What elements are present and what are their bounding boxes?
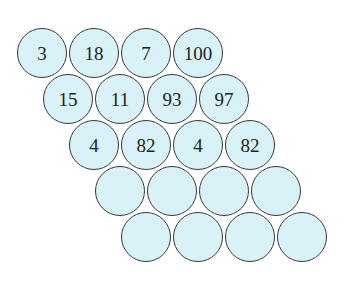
circle-value: 11 (111, 90, 129, 109)
circle-value: 18 (85, 44, 104, 63)
circle-value: 82 (241, 136, 260, 155)
circle-r4-c2 (147, 166, 197, 216)
circle-r2-c4: 97 (199, 74, 249, 124)
circle-r4-c3 (199, 166, 249, 216)
circle-r3-c3: 4 (173, 120, 223, 170)
circle-value: 97 (215, 90, 234, 109)
circle-r4-c4 (251, 166, 301, 216)
circle-r3-c2: 82 (121, 120, 171, 170)
circle-r4-c1 (95, 166, 145, 216)
circle-r2-c3: 93 (147, 74, 197, 124)
circle-r2-c1: 15 (43, 74, 93, 124)
circle-value: 15 (59, 90, 78, 109)
circle-r5-c1 (121, 212, 171, 262)
circle-value: 4 (89, 136, 99, 155)
circle-r3-c4: 82 (225, 120, 275, 170)
circle-r5-c4 (277, 212, 327, 262)
circle-r1-c2: 18 (69, 28, 119, 78)
circle-value: 7 (141, 44, 151, 63)
circle-r3-c1: 4 (69, 120, 119, 170)
circle-value: 3 (37, 44, 47, 63)
circle-r5-c3 (225, 212, 275, 262)
circle-r2-c2: 11 (95, 74, 145, 124)
circle-value: 93 (163, 90, 182, 109)
circle-r5-c2 (173, 212, 223, 262)
circle-value: 82 (137, 136, 156, 155)
circle-r1-c1: 3 (17, 28, 67, 78)
circle-grid-diagram: 3 18 7 100 15 11 93 97 4 82 4 82 (0, 0, 348, 284)
circle-value: 100 (184, 44, 213, 63)
circle-value: 4 (193, 136, 203, 155)
circle-r1-c4: 100 (173, 28, 223, 78)
circle-r1-c3: 7 (121, 28, 171, 78)
